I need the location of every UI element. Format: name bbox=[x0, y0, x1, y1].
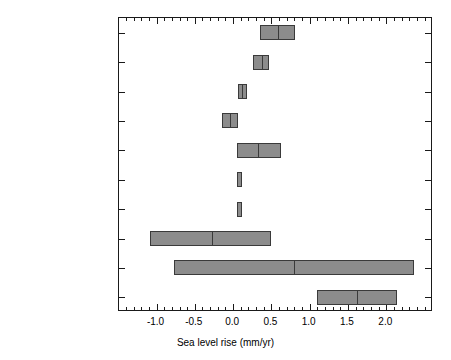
x-tick-minor bbox=[141, 18, 142, 21]
x-tick-minor bbox=[279, 307, 280, 310]
y-tick bbox=[119, 297, 125, 298]
x-tick-minor bbox=[409, 307, 410, 310]
x-tick-minor bbox=[317, 18, 318, 21]
y-tick bbox=[425, 239, 431, 240]
y-tick bbox=[425, 209, 431, 210]
y-tick bbox=[425, 92, 431, 93]
x-tick-major bbox=[386, 304, 387, 310]
x-tick-major bbox=[310, 304, 311, 310]
bar-center-line bbox=[294, 260, 295, 275]
x-tick-label: -0.5 bbox=[185, 316, 202, 327]
y-tick bbox=[119, 150, 125, 151]
x-tick-minor bbox=[371, 307, 372, 310]
plot-area bbox=[118, 17, 432, 311]
x-tick-minor bbox=[317, 307, 318, 310]
x-tick-major bbox=[348, 304, 349, 310]
x-tick-minor bbox=[126, 307, 127, 310]
bar-center-line bbox=[258, 143, 259, 158]
x-tick-minor bbox=[256, 18, 257, 21]
x-tick-minor bbox=[409, 18, 410, 21]
y-tick bbox=[425, 62, 431, 63]
x-tick-minor bbox=[371, 18, 372, 21]
x-tick-minor bbox=[210, 307, 211, 310]
x-tick-minor bbox=[218, 18, 219, 21]
y-tick bbox=[119, 121, 125, 122]
x-tick-minor bbox=[256, 307, 257, 310]
x-tick-minor bbox=[402, 18, 403, 21]
x-tick-minor bbox=[149, 307, 150, 310]
x-tick-minor bbox=[417, 307, 418, 310]
x-tick-minor bbox=[202, 18, 203, 21]
x-axis-label: Sea level rise (mm/yr) bbox=[0, 337, 451, 348]
x-tick-major bbox=[233, 18, 234, 24]
x-tick-minor bbox=[425, 307, 426, 310]
x-tick-minor bbox=[287, 307, 288, 310]
bar-center-line bbox=[242, 84, 243, 99]
x-tick-minor bbox=[379, 18, 380, 21]
x-tick-minor bbox=[363, 18, 364, 21]
x-tick-minor bbox=[417, 18, 418, 21]
x-tick-minor bbox=[302, 307, 303, 310]
y-tick bbox=[425, 33, 431, 34]
x-tick-minor bbox=[141, 307, 142, 310]
y-tick bbox=[119, 180, 125, 181]
y-tick bbox=[119, 92, 125, 93]
x-tick-minor bbox=[333, 18, 334, 21]
x-tick-major bbox=[195, 304, 196, 310]
x-tick-minor bbox=[287, 18, 288, 21]
x-tick-major bbox=[195, 18, 196, 24]
x-tick-minor bbox=[248, 307, 249, 310]
y-tick bbox=[119, 209, 125, 210]
x-tick-minor bbox=[294, 18, 295, 21]
x-tick-minor bbox=[187, 18, 188, 21]
x-tick-minor bbox=[241, 18, 242, 21]
bar-center-line bbox=[212, 231, 213, 246]
y-tick bbox=[119, 62, 125, 63]
x-tick-minor bbox=[202, 307, 203, 310]
x-tick-minor bbox=[248, 18, 249, 21]
x-tick-minor bbox=[333, 307, 334, 310]
x-tick-minor bbox=[394, 307, 395, 310]
x-tick-minor bbox=[325, 18, 326, 21]
x-tick-minor bbox=[394, 18, 395, 21]
x-tick-label: 1.0 bbox=[302, 316, 316, 327]
x-tick-label: 1.5 bbox=[340, 316, 354, 327]
x-tick-label: 2.0 bbox=[378, 316, 392, 327]
bar-center-line bbox=[357, 290, 358, 305]
x-tick-label: 0.5 bbox=[263, 316, 277, 327]
x-tick-major bbox=[157, 18, 158, 24]
x-tick-minor bbox=[340, 18, 341, 21]
x-tick-minor bbox=[379, 307, 380, 310]
x-tick-minor bbox=[225, 307, 226, 310]
x-tick-minor bbox=[164, 18, 165, 21]
y-tick bbox=[119, 268, 125, 269]
x-tick-label: 0.0 bbox=[225, 316, 239, 327]
x-tick-minor bbox=[264, 18, 265, 21]
y-tick bbox=[425, 297, 431, 298]
y-tick bbox=[425, 268, 431, 269]
x-tick-major bbox=[386, 18, 387, 24]
x-tick-minor bbox=[172, 18, 173, 21]
x-tick-minor bbox=[126, 18, 127, 21]
y-tick bbox=[119, 33, 125, 34]
x-tick-major bbox=[271, 304, 272, 310]
sea-level-rise-chart: Thermal expansionGlaciersGreenland (rece… bbox=[0, 0, 451, 360]
x-tick-minor bbox=[218, 307, 219, 310]
x-tick-minor bbox=[402, 307, 403, 310]
x-tick-minor bbox=[180, 307, 181, 310]
x-tick-minor bbox=[134, 18, 135, 21]
y-tick bbox=[425, 150, 431, 151]
x-tick-minor bbox=[302, 18, 303, 21]
x-tick-minor bbox=[279, 18, 280, 21]
x-tick-minor bbox=[363, 307, 364, 310]
y-tick bbox=[425, 180, 431, 181]
x-tick-minor bbox=[340, 307, 341, 310]
x-tick-minor bbox=[225, 18, 226, 21]
x-tick-minor bbox=[294, 307, 295, 310]
x-tick-minor bbox=[172, 307, 173, 310]
x-tick-major bbox=[310, 18, 311, 24]
x-tick-minor bbox=[134, 307, 135, 310]
x-tick-minor bbox=[164, 307, 165, 310]
bar-terrestrial-storage bbox=[150, 231, 271, 246]
x-tick-minor bbox=[210, 18, 211, 21]
